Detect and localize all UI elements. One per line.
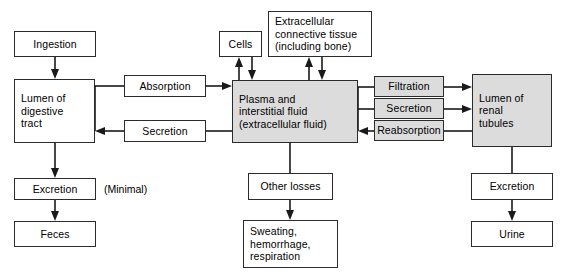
node-filtration[interactable]: Filtration xyxy=(374,76,444,97)
node-urine[interactable]: Urine xyxy=(471,221,553,247)
node-absorption-label: Absorption xyxy=(125,80,205,93)
node-ingestion[interactable]: Ingestion xyxy=(14,31,96,57)
node-cells-label: Cells xyxy=(220,38,261,51)
node-excretion-renal-label: Excretion xyxy=(472,180,552,193)
node-feces[interactable]: Feces xyxy=(14,221,96,247)
arrowhead-other-losses-to-sweating xyxy=(286,210,294,220)
arrowhead-plasma-to-ect xyxy=(305,57,313,67)
node-urine-label: Urine xyxy=(472,228,552,241)
node-extracellular-connective-tissue[interactable]: Extracellular connective tissue (includi… xyxy=(268,11,372,57)
node-sweating-hemorrhage-respiration-label: Sweating, hemorrhage, respiration xyxy=(250,225,333,263)
node-lumen-of-renal-tubules-label: Lumen of renal tubules xyxy=(479,92,547,130)
arrowhead-cells-to-plasma xyxy=(248,70,256,80)
arrowhead-filtration-to-lumen-renal xyxy=(462,83,472,91)
node-reabsorption[interactable]: Reabsorption xyxy=(374,120,444,141)
annotation-minimal: (Minimal) xyxy=(104,183,147,196)
arrowhead-lumen-gi-to-excretion xyxy=(51,168,59,178)
node-secretion-digestive[interactable]: Secretion xyxy=(124,120,206,142)
arrowhead-ect-to-plasma xyxy=(318,70,326,80)
arrowhead-ingestion-to-lumen-gi xyxy=(51,69,59,79)
node-excretion-renal[interactable]: Excretion xyxy=(471,173,553,200)
node-plasma-and-interstitial-fluid[interactable]: Plasma and interstitial fluid (extracell… xyxy=(232,80,358,143)
arrowhead-secretion-gi-to-lumen-gi xyxy=(95,127,105,135)
node-secretion-renal[interactable]: Secretion xyxy=(374,98,444,119)
arrowhead-excretion-renal-to-urine xyxy=(508,211,516,221)
node-other-losses[interactable]: Other losses xyxy=(248,173,333,200)
node-absorption[interactable]: Absorption xyxy=(124,75,206,97)
flow-diagram: Ingestion Lumen of digestive tract Absor… xyxy=(0,0,567,276)
arrowhead-excretion-to-feces xyxy=(51,211,59,221)
node-lumen-of-digestive-tract-label: Lumen of digestive tract xyxy=(21,92,90,130)
node-lumen-of-renal-tubules[interactable]: Lumen of renal tubules xyxy=(472,74,552,147)
node-ingestion-label: Ingestion xyxy=(15,38,95,51)
node-excretion-digestive-label: Excretion xyxy=(15,183,95,196)
node-lumen-of-digestive-tract[interactable]: Lumen of digestive tract xyxy=(14,79,95,143)
arrowhead-plasma-to-cells xyxy=(235,57,243,67)
node-feces-label: Feces xyxy=(15,228,95,241)
arrowhead-absorption-to-plasma xyxy=(222,82,232,90)
arrowhead-secretion-renal-to-lumen-renal xyxy=(462,105,472,113)
node-secretion-renal-label: Secretion xyxy=(375,102,443,115)
node-excretion-digestive[interactable]: Excretion xyxy=(14,178,96,200)
node-reabsorption-label: Reabsorption xyxy=(375,124,443,137)
node-filtration-label: Filtration xyxy=(375,80,443,93)
node-other-losses-label: Other losses xyxy=(249,180,332,193)
node-plasma-and-interstitial-fluid-label: Plasma and interstitial fluid (extracell… xyxy=(239,93,353,131)
annotation-minimal-label: (Minimal) xyxy=(104,183,147,195)
node-sweating-hemorrhage-respiration[interactable]: Sweating, hemorrhage, respiration xyxy=(243,220,338,268)
arrowhead-reabsorption-to-plasma xyxy=(358,127,368,135)
node-extracellular-connective-tissue-label: Extracellular connective tissue (includi… xyxy=(275,15,367,53)
node-cells[interactable]: Cells xyxy=(219,31,262,57)
node-secretion-digestive-label: Secretion xyxy=(125,125,205,138)
